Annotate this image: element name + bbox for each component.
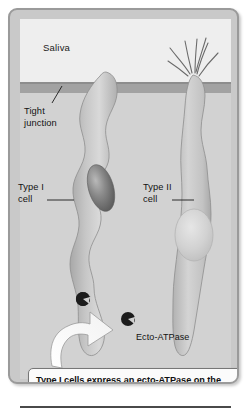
caption-box: Type I cells express an ecto-ATPase on t…	[28, 368, 239, 384]
bottom-rule	[20, 406, 231, 408]
ecto-atpase-label: Ecto-ATPase	[136, 332, 189, 344]
type-ii-cell-label: Type II cell	[143, 182, 172, 205]
leader-lines	[10, 10, 239, 384]
figure-frame: Saliva	[8, 8, 239, 384]
tight-junction-label: Tight junction	[24, 106, 57, 129]
type-i-cell-label: Type I cell	[18, 182, 44, 205]
caption-text: Type I cells express an ecto-ATPase on t…	[36, 374, 235, 384]
